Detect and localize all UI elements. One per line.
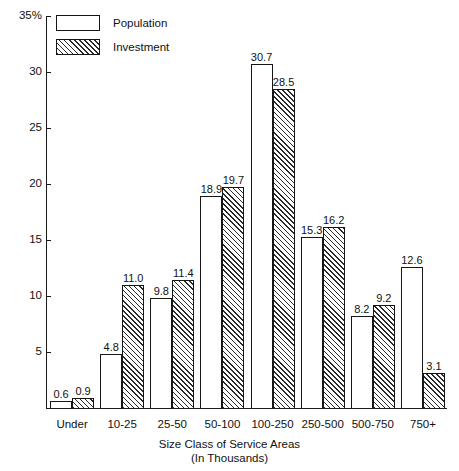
bar-value-label: 30.7 [251,52,272,63]
bar-group: 12.63.1 [401,16,445,408]
open-box-swatch-icon [56,15,100,31]
bar-value-label: 0.6 [53,389,68,400]
bar-chart-figure: 35%30252015105 0.60.94.811.09.811.418.91… [0,0,459,471]
bar-population: 15.3 [301,237,323,408]
bar-population: 12.6 [401,267,423,408]
bar-population: 9.8 [150,298,172,408]
bar-value-label: 0.9 [75,386,90,397]
y-axis-tick-label: 30 [0,66,42,77]
x-axis-title: Size Class of Service Areas (In Thousand… [0,437,459,465]
bar-value-label: 8.2 [354,304,369,315]
bar-investment: 3.1 [423,373,445,408]
bar-value-label: 3.1 [426,361,441,372]
bar-value-label: 28.5 [273,77,294,88]
y-axis-tick-label: 25 [0,122,42,133]
bar-investment: 19.7 [222,187,244,408]
bar-group: 0.60.9 [50,16,94,408]
bar-investment: 0.9 [72,398,94,408]
y-axis-tick-label: 15 [0,234,42,245]
bar-population: 18.9 [200,196,222,408]
bar-group: 9.811.4 [150,16,194,408]
bar-population: 4.8 [100,354,122,408]
bar-group: 30.728.5 [251,16,295,408]
bar-value-label: 12.6 [401,255,422,266]
bar-population: 30.7 [251,64,273,408]
y-axis-tick-label: 20 [0,178,42,189]
bar-value-label: 11.0 [123,273,144,284]
plot-area: 0.60.94.811.09.811.418.919.730.728.515.3… [46,16,447,408]
bar-value-label: 18.9 [201,184,222,195]
bar-value-label: 15.3 [301,225,322,236]
legend-label-investment: Investment [113,41,169,53]
bar-value-label: 16.2 [323,215,344,226]
bar-investment: 11.0 [122,285,144,408]
bar-investment: 9.2 [373,305,395,408]
y-axis-tick-label: 5 [0,346,42,357]
x-axis-title-line2: (In Thousands) [0,451,459,465]
y-axis-tick-label: 10 [0,290,42,301]
bar-investment: 28.5 [273,89,295,408]
bar-value-label: 9.8 [154,286,169,297]
y-axis-tick-label: 35% [0,10,42,21]
bar-group: 8.29.2 [351,16,395,408]
bar-group: 18.919.7 [200,16,244,408]
bar-value-label: 4.8 [104,342,119,353]
bar-value-label: 19.7 [223,175,244,186]
legend-label-population: Population [113,17,167,29]
bar-group: 4.811.0 [100,16,144,408]
bar-investment: 16.2 [323,227,345,408]
hatched-box-swatch-icon [56,39,100,55]
x-axis-line [46,408,447,409]
bar-value-label: 9.2 [376,293,391,304]
bar-value-label: 11.4 [173,268,194,279]
bar-investment: 11.4 [172,280,194,408]
x-axis-category-label: 750+ [383,418,459,430]
bar-population: 0.6 [50,401,72,408]
bar-group: 15.316.2 [301,16,345,408]
x-axis-title-line1: Size Class of Service Areas [159,438,300,450]
bar-population: 8.2 [351,316,373,408]
